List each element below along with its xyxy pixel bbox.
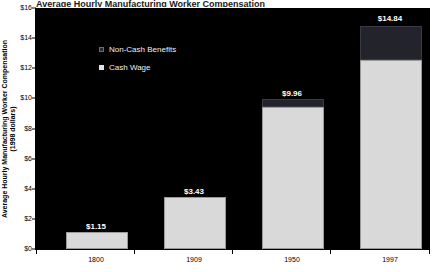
y-tick-label-16: $16 bbox=[2, 4, 32, 12]
y-tick-label-10: $10 bbox=[2, 94, 32, 102]
bar-value-1997: $14.84 bbox=[345, 14, 434, 23]
bar-value-1800: $1.15 bbox=[51, 222, 141, 231]
x-tick-mark-3 bbox=[330, 250, 331, 254]
x-tick-mark-2 bbox=[232, 250, 233, 254]
chart-title: Average Hourly Manufacturing Worker Comp… bbox=[36, 0, 429, 7]
bar-1909 bbox=[164, 8, 226, 249]
x-axis-line bbox=[36, 249, 430, 250]
bar-1950 bbox=[262, 8, 324, 249]
y-tick-label-6: $6 bbox=[2, 155, 32, 163]
bar-segment-cash-1909 bbox=[164, 197, 226, 249]
bar-value-1950: $9.96 bbox=[247, 89, 337, 98]
y-tick-label-8: $8 bbox=[2, 125, 32, 133]
chart-figure: Average Hourly Manufacturing Worker Comp… bbox=[0, 0, 434, 272]
bar-segment-non-cash-1950 bbox=[262, 99, 324, 107]
x-tick-label-1800: 1800 bbox=[66, 256, 126, 264]
x-tick-mark-right-edge bbox=[429, 250, 430, 254]
x-tick-label-1950: 1950 bbox=[262, 256, 322, 264]
plot-area: Non-Cash Benefits Cash Wage bbox=[36, 8, 430, 249]
bar-value-1909: $3.43 bbox=[149, 187, 239, 196]
x-tick-label-1909: 1909 bbox=[164, 256, 224, 264]
y-tick-label-14: $14 bbox=[2, 34, 32, 42]
bar-1800 bbox=[66, 8, 128, 249]
bar-1997 bbox=[360, 8, 422, 249]
bar-segment-cash-1950 bbox=[262, 107, 324, 249]
y-tick-label-0: $0 bbox=[2, 245, 32, 253]
x-tick-mark-1 bbox=[134, 250, 135, 254]
y-tick-label-12: $12 bbox=[2, 64, 32, 72]
x-tick-label-1997: 1997 bbox=[360, 256, 420, 264]
x-tick-mark-left-edge bbox=[36, 250, 37, 254]
bar-segment-non-cash-1997 bbox=[360, 26, 422, 61]
y-tick-label-2: $2 bbox=[2, 215, 32, 223]
y-tick-label-4: $4 bbox=[2, 185, 32, 193]
bar-segment-cash-1800 bbox=[66, 232, 128, 249]
bar-segment-cash-1997 bbox=[360, 60, 422, 249]
